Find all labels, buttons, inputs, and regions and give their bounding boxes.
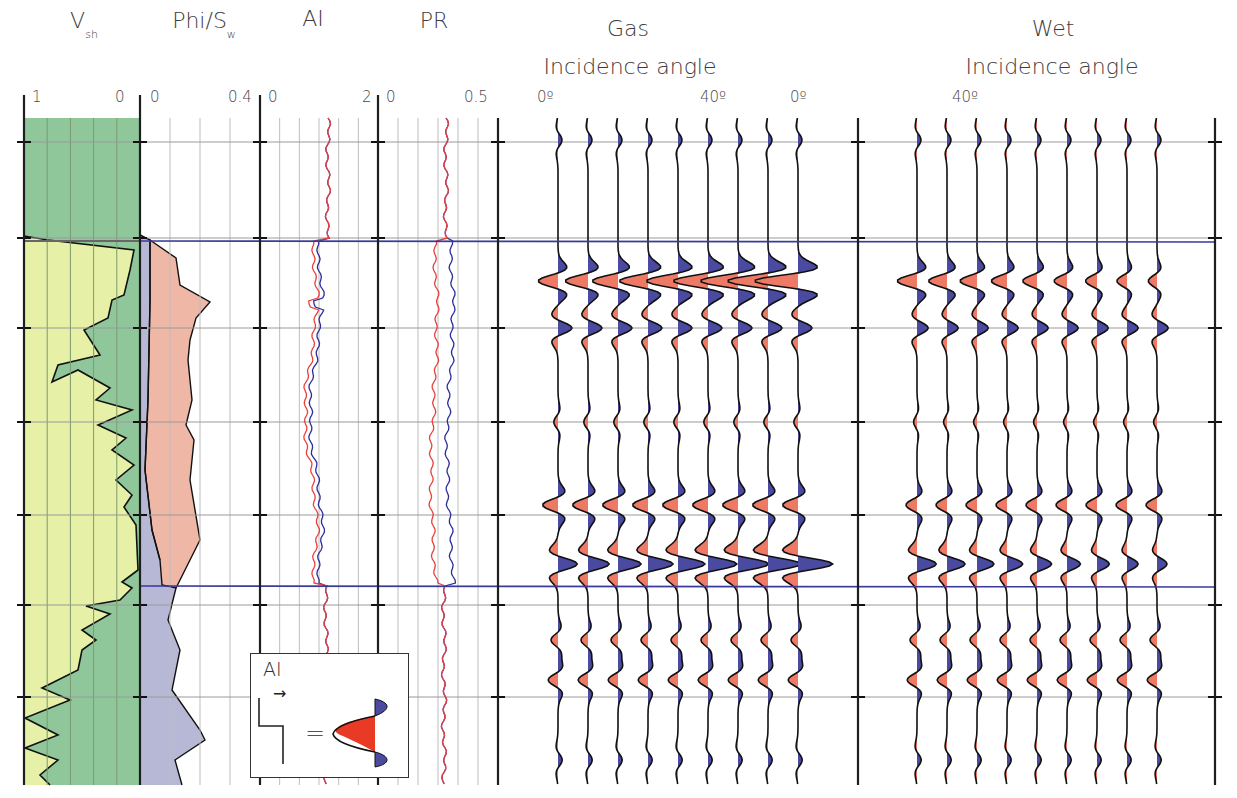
wiggle-trace — [1086, 118, 1110, 784]
grid-lines — [17, 118, 1222, 785]
wiggle-trace — [992, 118, 1023, 784]
well-log-plot — [0, 0, 1237, 798]
wiggle-trace — [1146, 118, 1168, 784]
wiggle-trace — [1054, 118, 1080, 784]
wiggle-trace — [1116, 118, 1138, 784]
wiggle-trace — [960, 118, 994, 784]
legend-wavelet-icon — [251, 654, 408, 777]
legend-box: AI → = — [250, 653, 409, 778]
wiggle-trace — [1023, 118, 1052, 784]
seismic-wiggles — [539, 118, 1169, 785]
